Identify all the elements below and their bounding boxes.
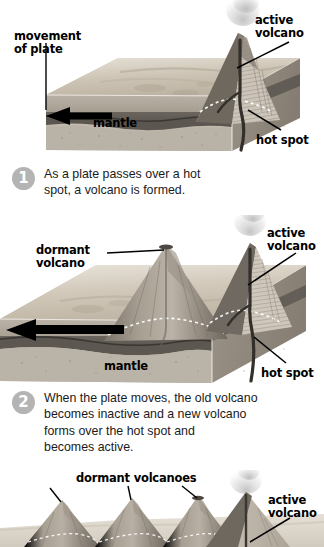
- label-active-volcano: active volcano: [268, 494, 317, 519]
- label-hot-spot: hot spot: [261, 367, 313, 380]
- label-active-volcano: active volcano: [267, 227, 316, 252]
- label-mantle: mantle: [93, 117, 137, 130]
- caption-step-2: When the plate moves, the old volcano be…: [44, 390, 316, 456]
- panel-1-hotspot-forms-volcano: movement of plate active volcano mantle …: [0, 0, 324, 158]
- panel-3-illustration: dormant volcanoes active volcano: [0, 470, 324, 547]
- panel-2-illustration: dormant volcano active volcano mantle ho…: [0, 215, 324, 385]
- panel-1-illustration: movement of plate active volcano mantle …: [0, 0, 324, 158]
- leader-dormant-volcano-2: [128, 486, 131, 500]
- panel-2-plate-moves-new-volcano: dormant volcano active volcano mantle ho…: [0, 215, 324, 385]
- step-number-2: 2: [12, 391, 35, 414]
- label-mantle: mantle: [104, 360, 148, 373]
- leader-dormant-volcano-3: [182, 486, 197, 498]
- step-number-1: 1: [12, 167, 35, 190]
- label-hot-spot: hot spot: [256, 134, 308, 147]
- label-movement-of-plate: movement of plate: [14, 30, 81, 55]
- label-dormant-volcanoes: dormant volcanoes: [76, 472, 196, 485]
- leader-dormant-volcano: [107, 250, 164, 253]
- leader-dormant-volcano-1: [50, 488, 61, 502]
- label-dormant-volcano: dormant volcano: [36, 244, 90, 269]
- caption-step-1: As a plate passes over a hot spot, a vol…: [44, 166, 304, 199]
- panel-3-volcano-chain: dormant volcanoes active volcano: [0, 470, 324, 547]
- label-active-volcano: active volcano: [255, 14, 304, 39]
